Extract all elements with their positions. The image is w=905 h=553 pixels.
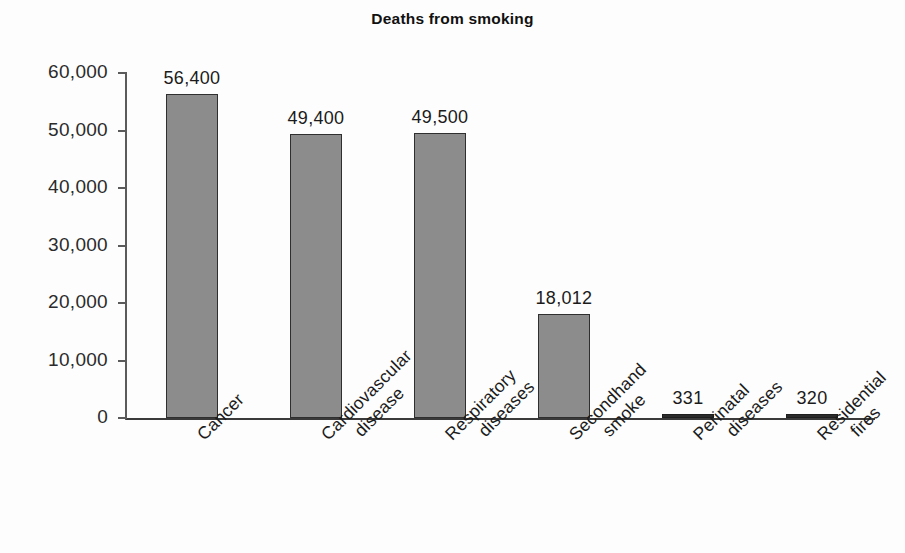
y-tick-mark bbox=[118, 187, 127, 189]
y-tick-mark bbox=[118, 245, 127, 247]
y-tick-label: 30,000 bbox=[0, 234, 108, 256]
y-tick-label: 0 bbox=[0, 406, 108, 428]
y-tick-label: 50,000 bbox=[0, 119, 108, 141]
y-tick-mark bbox=[118, 360, 127, 362]
y-tick-label: 20,000 bbox=[0, 291, 108, 313]
bar bbox=[538, 314, 590, 418]
y-tick-label: 40,000 bbox=[0, 176, 108, 198]
chart-title: Deaths from smoking bbox=[0, 10, 905, 28]
y-tick-mark bbox=[118, 417, 127, 419]
bar-value-label: 49,400 bbox=[260, 108, 372, 129]
bar-chart-figure: Deaths from smoking 60,00050,00040,00030… bbox=[0, 0, 905, 553]
bar-value-label: 56,400 bbox=[136, 68, 248, 89]
bar-value-label: 18,012 bbox=[508, 288, 620, 309]
bar bbox=[166, 94, 218, 418]
y-tick-mark bbox=[118, 72, 127, 74]
y-tick-mark bbox=[118, 302, 127, 304]
bar bbox=[290, 134, 342, 418]
y-tick-label: 10,000 bbox=[0, 349, 108, 371]
y-tick-mark bbox=[118, 130, 127, 132]
x-category-label: Perinataldiseases bbox=[689, 362, 787, 460]
bar-value-label: 49,500 bbox=[384, 107, 496, 128]
y-tick-label: 60,000 bbox=[0, 61, 108, 83]
